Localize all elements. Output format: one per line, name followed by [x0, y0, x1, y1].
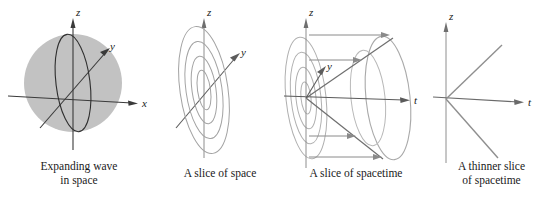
x-axis-arrowhead	[128, 100, 138, 105]
t-axis-arrowhead	[514, 99, 524, 105]
axis-label-t: t	[528, 96, 532, 108]
light-cone-mouth-ellipse	[360, 34, 417, 162]
y-axis-arrowhead	[317, 66, 326, 75]
wave-front-ellipse-4	[282, 35, 332, 161]
z-axis-arrowhead	[304, 18, 309, 28]
t-axis-line	[284, 96, 404, 100]
axis-label-y: y	[326, 60, 332, 72]
figure-expanding-wave-spacetime: z y x Expanding wave in space z y A s	[0, 0, 553, 208]
axis-label-y: y	[240, 46, 246, 58]
axis-label-z: z	[206, 6, 212, 18]
axis-label-x: x	[141, 97, 147, 109]
panel-a-slice-of-spacetime: z y t A slice of spacetime	[282, 0, 430, 208]
axis-label-z: z	[75, 6, 81, 18]
panel-1-caption: Expanding wave in space	[0, 160, 158, 187]
axis-label-y: y	[109, 40, 115, 52]
t-axis-arrowhead	[400, 97, 410, 103]
z-axis-arrowhead	[202, 18, 207, 28]
y-axis-arrowhead	[230, 53, 240, 62]
panel-3-caption: A slice of spacetime	[282, 167, 430, 181]
z-axis-arrowhead	[71, 18, 76, 28]
upper-light-ray	[446, 45, 502, 99]
axis-label-z: z	[448, 10, 454, 22]
panel-a-slice-of-space: z y A slice of space	[158, 0, 282, 208]
axis-label-z: z	[308, 6, 314, 18]
wave-front-ellipses	[282, 35, 332, 161]
panel-expanding-wave-in-space: z y x Expanding wave in space	[0, 0, 158, 208]
panel-2-caption: A slice of space	[158, 167, 282, 181]
panel-4-caption: A thinner slice of spacetime	[430, 160, 553, 187]
axis-label-t: t	[414, 94, 418, 106]
lower-light-ray	[446, 99, 498, 158]
light-cone-upper-generator	[306, 38, 393, 98]
panel-a-thinner-slice-of-spacetime: z t A thinner slice of spacetime	[430, 0, 553, 208]
z-axis-arrowhead	[444, 22, 449, 32]
